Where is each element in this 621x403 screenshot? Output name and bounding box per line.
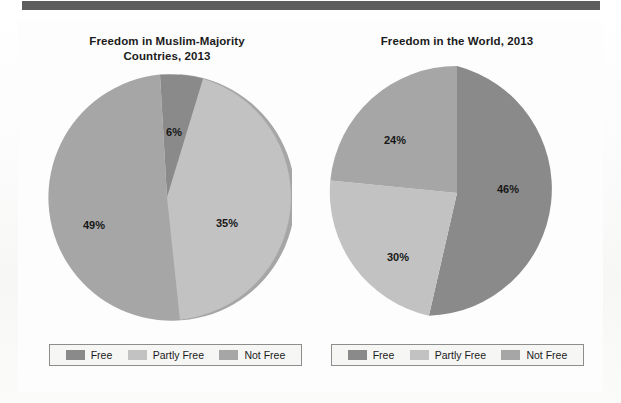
legend-left-label-free: Free [91, 349, 113, 361]
legend-right-label-not-free: Not Free [526, 349, 567, 361]
pie-chart-right[interactable]: 46% 30% 24% [328, 64, 586, 322]
legend-left-item-free[interactable]: Free [66, 349, 113, 361]
legend-left-label-partly-free: Partly Free [153, 349, 204, 361]
pie-right-label-free: 46% [497, 183, 519, 195]
legend-swatch-partly-free-icon [410, 350, 429, 360]
legend-right-item-not-free[interactable]: Not Free [501, 349, 567, 361]
legend-right: Free Partly Free Not Free [331, 344, 584, 366]
legend-left-label-not-free: Not Free [244, 349, 285, 361]
pie-left-label-partly-free: 35% [216, 217, 238, 229]
pie-right-wrapper: 46% 30% 24% [312, 64, 602, 322]
legend-right-label-partly-free: Partly Free [435, 349, 486, 361]
pie-right-slice-not-free[interactable] [330, 66, 457, 193]
legend-swatch-not-free-icon [219, 350, 238, 360]
legend-right-label-free: Free [373, 349, 395, 361]
chart-left-title-line1: Freedom in Muslim-Majority [22, 34, 312, 49]
legend-swatch-not-free-icon [501, 350, 520, 360]
chart-left-title: Freedom in Muslim-Majority Countries, 20… [22, 34, 312, 64]
legend-left-item-not-free[interactable]: Not Free [219, 349, 285, 361]
pie-left-label-not-free: 49% [83, 219, 105, 231]
figure-panel: Freedom in Muslim-Majority Countries, 20… [18, 22, 603, 392]
pie-left-label-free: 6% [166, 126, 182, 138]
chart-world: Freedom in the World, 2013 46% 30% 24% F… [312, 22, 602, 392]
pie-left-wrapper: 6% 35% 49% [22, 72, 312, 322]
legend-left: Free Partly Free Not Free [49, 344, 302, 366]
legend-right-item-partly-free[interactable]: Partly Free [410, 349, 486, 361]
top-header-rule [22, 1, 600, 10]
legend-swatch-partly-free-icon [128, 350, 147, 360]
legend-swatch-free-icon [66, 350, 85, 360]
legend-right-item-free[interactable]: Free [348, 349, 395, 361]
pie-right-label-not-free: 24% [384, 134, 406, 146]
pie-right-label-partly-free: 30% [387, 251, 409, 263]
chart-left-title-line2: Countries, 2013 [22, 49, 312, 64]
chart-muslim-majority: Freedom in Muslim-Majority Countries, 20… [22, 22, 312, 392]
legend-swatch-free-icon [348, 350, 367, 360]
pie-chart-left[interactable]: 6% 35% 49% [42, 72, 292, 322]
chart-right-title-line1: Freedom in the World, 2013 [312, 34, 602, 49]
chart-right-title: Freedom in the World, 2013 [312, 34, 602, 49]
legend-left-item-partly-free[interactable]: Partly Free [128, 349, 204, 361]
